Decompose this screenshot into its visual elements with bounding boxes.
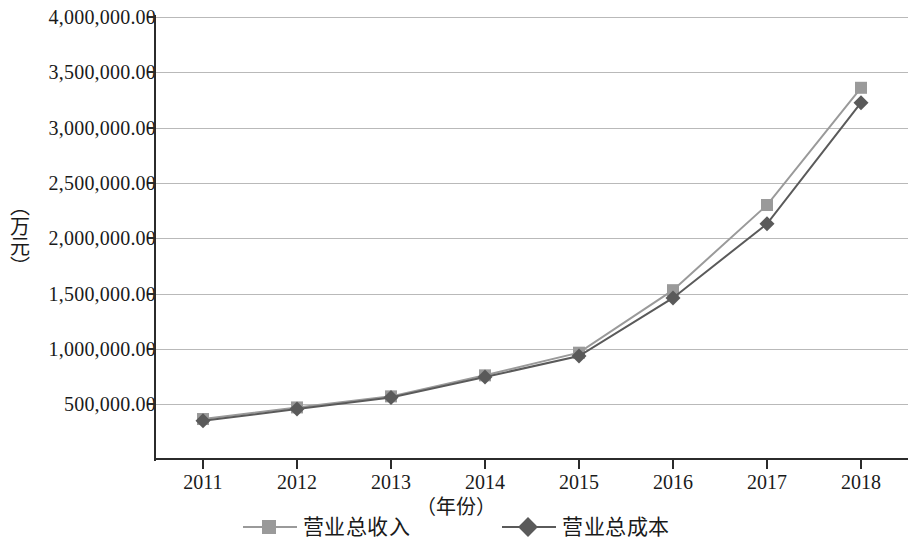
y-axis-tick-mark [148,16,156,18]
legend-item[interactable]: 营业总收入 [243,515,411,539]
legend-swatch [502,519,556,535]
x-axis-tick-mark [860,460,862,469]
gridline [156,349,908,350]
x-axis-tick-label: 2013 [351,470,431,494]
legend-swatch [243,519,297,535]
y-axis-tick-mark [148,403,156,405]
y-axis-tick-label: 4,000,000.00 [0,7,156,27]
y-axis-tick-mark [148,182,156,184]
y-axis-tick-mark [148,71,156,73]
y-axis-tick-label: 2,500,000.00 [0,173,156,193]
y-axis-tick-label: 1,000,000.00 [0,339,156,359]
gridline [156,128,908,129]
legend-item[interactable]: 营业总成本 [502,515,670,539]
gridline [156,17,908,18]
x-axis-tick-label: 2012 [257,470,337,494]
y-axis-tick-label: 3,500,000.00 [0,62,156,82]
gridline [156,72,908,73]
y-axis-tick-mark [148,237,156,239]
legend-label: 营业总成本 [562,515,670,539]
y-axis-tick-mark [148,293,156,295]
gridline [156,404,908,405]
x-axis-tick-label: 2015 [539,470,619,494]
x-axis-tick-label: 2018 [821,470,901,494]
x-axis-tick-mark [296,460,298,469]
gridline [156,183,908,184]
plot-area [156,17,908,459]
x-axis-tick-mark [484,460,486,469]
x-axis-tick-mark [390,460,392,469]
x-axis-tick-label: 2011 [163,470,243,494]
gridline [156,294,908,295]
y-axis-tick-mark [148,127,156,129]
legend: 营业总收入营业总成本 [0,515,912,539]
diamond-marker-icon [518,517,538,537]
x-axis-tick-label: 2014 [445,470,525,494]
line-chart: （万元） 4,000,000.003,500,000.003,000,000.0… [0,0,912,543]
x-axis-tick-label: 2016 [633,470,713,494]
y-axis-tick-label: 3,000,000.00 [0,118,156,138]
x-axis-line [154,458,908,460]
y-axis-tick-label: 2,000,000.00 [0,228,156,248]
y-axis-tick-label: 500,000.00 [0,394,156,414]
square-marker-icon [262,520,276,534]
x-axis-tick-mark [578,460,580,469]
y-axis-tick-label: 1,500,000.00 [0,284,156,304]
x-axis-tick-mark [202,460,204,469]
x-axis-tick-mark [766,460,768,469]
legend-label: 营业总收入 [303,515,411,539]
y-axis-tick-mark [148,348,156,350]
x-axis-tick-label: 2017 [727,470,807,494]
x-axis-tick-mark [672,460,674,469]
gridline [156,238,908,239]
